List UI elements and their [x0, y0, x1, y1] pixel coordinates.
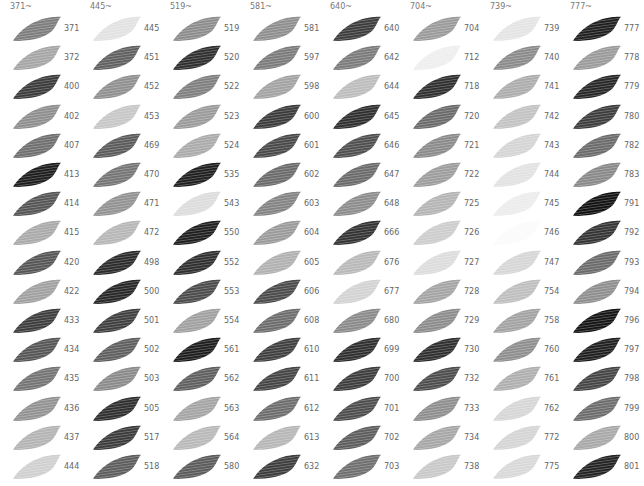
color-code-label: 523 — [224, 112, 239, 121]
color-code-label: 524 — [224, 141, 239, 150]
leaf-swatch-icon — [410, 132, 464, 160]
leaf-swatch-icon — [330, 395, 384, 423]
leaf-swatch-icon — [10, 219, 64, 247]
swatch-item: 726 — [410, 219, 482, 247]
color-code-label: 734 — [464, 433, 479, 442]
swatch-item: 800 — [570, 424, 642, 452]
swatch-item: 725 — [410, 190, 482, 218]
color-code-label: 647 — [384, 170, 399, 179]
swatch-item: 535 — [170, 161, 242, 189]
color-code-label: 775 — [544, 462, 559, 471]
color-code-label: 604 — [304, 228, 319, 237]
swatch-item: 437 — [10, 424, 82, 452]
leaf-swatch-icon — [330, 249, 384, 277]
color-code-label: 796 — [624, 316, 639, 325]
swatch-item: 503 — [90, 365, 162, 393]
swatch-item: 518 — [90, 453, 162, 481]
leaf-swatch-icon — [490, 424, 544, 452]
leaf-swatch-icon — [330, 278, 384, 306]
leaf-swatch-icon — [250, 336, 304, 364]
leaf-swatch-icon — [490, 307, 544, 335]
leaf-swatch-icon — [90, 336, 144, 364]
color-code-label: 799 — [624, 404, 639, 413]
swatch-item: 680 — [330, 307, 402, 335]
swatch-item: 564 — [170, 424, 242, 452]
swatch-item: 760 — [490, 336, 562, 364]
color-code-label: 725 — [464, 199, 479, 208]
color-code-label: 703 — [384, 462, 399, 471]
color-code-label: 371 — [64, 24, 79, 33]
swatch-item: 400 — [10, 73, 82, 101]
color-code-label: 597 — [304, 53, 319, 62]
leaf-swatch-icon — [90, 44, 144, 72]
color-code-label: 554 — [224, 316, 239, 325]
color-code-label: 519 — [224, 24, 239, 33]
swatch-item: 517 — [90, 424, 162, 452]
swatch-item: 728 — [410, 278, 482, 306]
swatch-item: 452 — [90, 73, 162, 101]
swatch-item: 801 — [570, 453, 642, 481]
swatch-item: 604 — [250, 219, 322, 247]
leaf-swatch-icon — [10, 132, 64, 160]
swatch-item: 730 — [410, 336, 482, 364]
leaf-swatch-icon — [570, 336, 624, 364]
swatch-item: 727 — [410, 249, 482, 277]
color-code-label: 598 — [304, 82, 319, 91]
leaf-swatch-icon — [570, 249, 624, 277]
color-code-label: 760 — [544, 345, 559, 354]
swatch-item: 647 — [330, 161, 402, 189]
leaf-swatch-icon — [250, 307, 304, 335]
swatch-item: 779 — [570, 73, 642, 101]
swatch-item: 420 — [10, 249, 82, 277]
leaf-swatch-icon — [250, 453, 304, 481]
leaf-swatch-icon — [410, 278, 464, 306]
column-header: 739~ — [490, 2, 512, 11]
leaf-swatch-icon — [410, 336, 464, 364]
leaf-swatch-icon — [10, 395, 64, 423]
color-code-label: 704 — [464, 24, 479, 33]
color-code-label: 746 — [544, 228, 559, 237]
swatch-item: 554 — [170, 307, 242, 335]
color-code-label: 563 — [224, 404, 239, 413]
leaf-swatch-icon — [570, 44, 624, 72]
color-code-label: 562 — [224, 374, 239, 383]
swatch-item: 601 — [250, 132, 322, 160]
color-code-label: 727 — [464, 258, 479, 267]
leaf-swatch-icon — [330, 307, 384, 335]
leaf-swatch-icon — [410, 161, 464, 189]
swatch-item: 453 — [90, 103, 162, 131]
swatch-item: 611 — [250, 365, 322, 393]
swatch-item: 718 — [410, 73, 482, 101]
color-code-label: 550 — [224, 228, 239, 237]
leaf-swatch-icon — [570, 365, 624, 393]
swatch-item: 744 — [490, 161, 562, 189]
swatch-item: 580 — [170, 453, 242, 481]
swatch-item: 414 — [10, 190, 82, 218]
swatch-item: 451 — [90, 44, 162, 72]
leaf-swatch-icon — [90, 307, 144, 335]
swatch-column: 704~704712718720721722725726727728729730… — [400, 0, 480, 486]
swatch-item: 522 — [170, 73, 242, 101]
leaf-swatch-icon — [170, 15, 224, 43]
color-code-label: 758 — [544, 316, 559, 325]
leaf-swatch-icon — [330, 132, 384, 160]
leaf-swatch-icon — [10, 424, 64, 452]
swatch-item: 743 — [490, 132, 562, 160]
color-code-label: 792 — [624, 228, 639, 237]
leaf-swatch-icon — [90, 190, 144, 218]
leaf-swatch-icon — [490, 453, 544, 481]
swatch-item: 413 — [10, 161, 82, 189]
column-header: 640~ — [330, 2, 352, 11]
swatch-item: 646 — [330, 132, 402, 160]
leaf-swatch-icon — [10, 44, 64, 72]
leaf-swatch-icon — [410, 44, 464, 72]
leaf-swatch-icon — [170, 190, 224, 218]
color-code-label: 437 — [64, 433, 79, 442]
leaf-swatch-icon — [250, 219, 304, 247]
color-code-label: 469 — [144, 141, 159, 150]
swatch-item: 645 — [330, 103, 402, 131]
leaf-swatch-icon — [10, 249, 64, 277]
color-code-label: 744 — [544, 170, 559, 179]
swatch-item: 435 — [10, 365, 82, 393]
leaf-swatch-icon — [330, 190, 384, 218]
